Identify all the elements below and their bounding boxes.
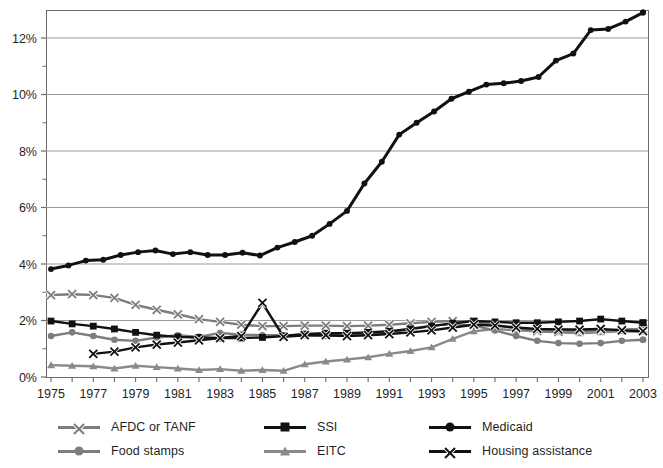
data-point-marker (153, 247, 159, 253)
data-point-marker (65, 262, 71, 268)
y-axis-tick-label: 4% (19, 258, 37, 272)
series-housing-assistance (89, 299, 647, 358)
data-point-marker (48, 266, 54, 272)
x-axis-tick-label: 1999 (545, 387, 573, 401)
y-axis-tick-label: 10% (12, 88, 37, 102)
data-point-marker (205, 252, 211, 258)
data-point-marker (48, 333, 55, 340)
legend-item-ssi[interactable]: SSI (264, 415, 346, 439)
data-point-marker (431, 108, 437, 114)
data-point-marker (111, 326, 118, 333)
data-point-marker (69, 329, 76, 336)
data-point-marker (361, 181, 367, 187)
legend-circle-marker-icon (446, 423, 455, 432)
x-axis-tick-label: 2003 (629, 387, 657, 401)
legend-column-1: AFDC or TANFFood stamps (58, 415, 196, 463)
data-point-marker (597, 316, 604, 323)
x-axis-tick-label: 1995 (460, 387, 488, 401)
data-point-marker (501, 80, 507, 86)
y-axis-tick-label: 8% (19, 145, 37, 159)
legend-x-marker-icon (73, 421, 85, 433)
x-axis-tick-label: 2001 (587, 387, 615, 401)
legend-label: EITC (317, 444, 346, 458)
data-point-marker (588, 27, 594, 33)
data-point-marker (640, 319, 647, 326)
legend-label: AFDC or TANF (111, 420, 196, 434)
data-point-marker (327, 221, 333, 227)
data-point-marker (274, 245, 280, 251)
data-point-marker (111, 336, 118, 343)
data-point-marker (83, 258, 89, 264)
x-axis-tick-label: 1993 (418, 387, 446, 401)
data-point-marker (605, 26, 611, 32)
data-point-marker (466, 89, 472, 95)
line-chart: 0%2%4%6%8%10%12%197519771979198119831985… (0, 0, 663, 468)
data-point-marker (259, 334, 266, 341)
x-axis-tick-label: 1997 (502, 387, 530, 401)
data-point-marker (553, 58, 559, 64)
data-point-marker (135, 249, 141, 255)
data-point-marker (90, 333, 97, 340)
legend-swatch (429, 443, 471, 459)
data-point-marker (555, 340, 562, 347)
data-point-marker (640, 336, 647, 343)
data-point-marker (132, 329, 139, 336)
x-axis-tick-label: 1981 (164, 387, 192, 401)
data-point-marker (258, 299, 266, 307)
data-point-marker (570, 51, 576, 57)
legend-triangle-marker-icon (280, 447, 290, 456)
data-point-marker (518, 78, 524, 84)
data-point-marker (100, 257, 106, 263)
legend-label: Housing assistance (482, 444, 592, 458)
data-point-marker (222, 252, 228, 258)
data-point-marker (240, 250, 246, 256)
data-point-marker (618, 318, 625, 325)
data-point-marker (576, 340, 583, 347)
legend-circle-marker-icon (75, 447, 84, 456)
series-line (51, 13, 643, 270)
data-point-marker (344, 208, 350, 214)
data-point-marker (640, 10, 646, 16)
legend-item-eitc[interactable]: EITC (264, 439, 346, 463)
data-point-marker (257, 253, 263, 259)
data-point-marker (623, 19, 629, 25)
legend-column-2: SSIEITC (264, 415, 346, 463)
chart-legend: AFDC or TANFFood stampsSSIEITCMedicaidHo… (0, 415, 663, 468)
data-point-marker (118, 252, 124, 258)
series-medicaid (48, 10, 646, 272)
x-axis-tick-label: 1991 (375, 387, 403, 401)
y-axis-tick-label: 0% (19, 371, 37, 385)
legend-label: Medicaid (482, 420, 533, 434)
data-point-marker (187, 249, 193, 255)
data-point-marker (534, 338, 541, 345)
y-axis-tick-label: 6% (19, 201, 37, 215)
legend-item-medicaid[interactable]: Medicaid (429, 415, 592, 439)
legend-swatch (429, 419, 471, 435)
x-axis-tick-label: 1979 (122, 387, 150, 401)
data-point-marker (449, 96, 455, 102)
legend-label: SSI (317, 420, 337, 434)
data-point-marker (292, 239, 298, 245)
legend-swatch (264, 443, 306, 459)
data-point-marker (309, 233, 315, 239)
data-point-marker (536, 74, 542, 80)
x-axis-tick-label: 1975 (37, 387, 65, 401)
legend-swatch (58, 443, 100, 459)
legend-item-afdc-or-tanf[interactable]: AFDC or TANF (58, 415, 196, 439)
chart-container: 0%2%4%6%8%10%12%197519771979198119831985… (0, 0, 663, 468)
data-point-marker (576, 318, 583, 325)
x-axis-tick-label: 1987 (291, 387, 319, 401)
data-point-marker (513, 333, 520, 340)
data-point-marker (90, 323, 97, 330)
y-axis-tick-label: 12% (12, 32, 37, 46)
y-axis-tick-label: 2% (19, 314, 37, 328)
legend-item-food-stamps[interactable]: Food stamps (58, 439, 196, 463)
data-point-marker (555, 319, 562, 326)
legend-column-3: MedicaidHousing assistance (429, 415, 592, 463)
legend-x-marker-icon (444, 445, 456, 457)
x-axis-tick-label: 1983 (206, 387, 234, 401)
data-point-marker (619, 338, 626, 345)
data-point-marker (153, 332, 160, 339)
legend-item-housing-assistance[interactable]: Housing assistance (429, 439, 592, 463)
data-point-marker (597, 340, 604, 347)
